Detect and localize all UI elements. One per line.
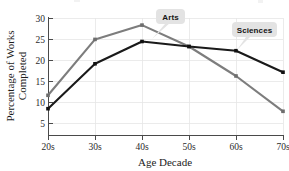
x-tick-label: 40s — [135, 142, 149, 152]
y-tick-labels: 30 25 20 15 10 5 — [36, 14, 46, 129]
x-tick-label: 30s — [88, 142, 102, 152]
y-tick-label: 25 — [36, 35, 46, 45]
y-axis-title-line2: Completed — [16, 51, 28, 100]
chart-container: 30 25 20 15 10 5 20s 30s 40s 50s 60s 70s… — [0, 0, 289, 171]
y-tick-label: 10 — [36, 98, 46, 108]
sciences-line — [48, 42, 283, 109]
x-axis-title: Age Decade — [138, 156, 192, 168]
y-tick-label: 20 — [36, 56, 46, 66]
x-tick-labels: 20s 30s 40s 50s 60s 70s — [41, 142, 289, 152]
callout-sciences-tail — [237, 35, 252, 50]
y-axis-title-line1: Percentage of Works — [4, 30, 16, 121]
y-tick-label: 30 — [36, 14, 46, 24]
x-tick-label: 60s — [229, 142, 243, 152]
callout-sciences-label: Sciences — [237, 26, 273, 35]
x-tick-label: 20s — [41, 142, 55, 152]
callout-arts-label: Arts — [162, 13, 179, 22]
y-tick-label: 5 — [40, 119, 45, 129]
line-chart: 30 25 20 15 10 5 20s 30s 40s 50s 60s 70s… — [0, 0, 289, 171]
title-clip-artifact-right — [258, 0, 263, 3]
callout-arts: Arts — [152, 9, 185, 39]
series-sciences — [46, 40, 285, 111]
x-tick-label: 50s — [182, 142, 196, 152]
callout-sciences: Sciences — [232, 22, 277, 50]
y-tick-label: 15 — [36, 77, 46, 87]
title-clip-artifact — [74, 0, 80, 2]
x-tick-label: 70s — [276, 142, 289, 152]
x-tick-marks — [48, 135, 283, 140]
